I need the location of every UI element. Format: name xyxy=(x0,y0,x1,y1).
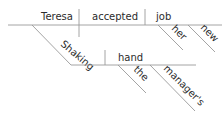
object-word: job xyxy=(155,11,171,22)
modifier-the-word: the xyxy=(132,64,151,83)
modifier-managers-word: manager's xyxy=(162,63,207,108)
verb-word: accepted xyxy=(92,11,138,22)
subject-word: Teresa xyxy=(40,11,73,22)
sentence-diagram: Teresa accepted job her new Shaking hand… xyxy=(0,0,222,115)
participle-word-curved: Shaking xyxy=(59,38,97,72)
participle-object-word: hand xyxy=(118,52,143,63)
